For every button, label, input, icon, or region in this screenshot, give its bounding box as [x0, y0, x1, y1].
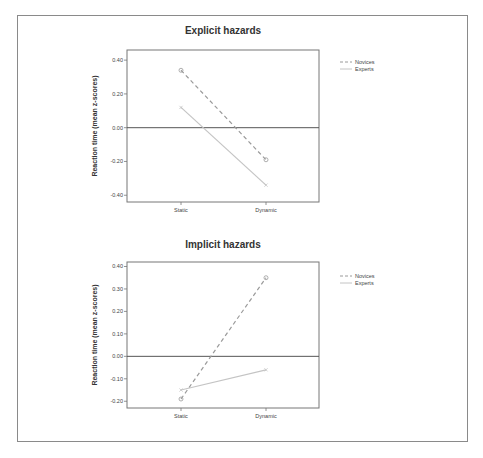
y-tick-label: 0.10: [112, 331, 123, 337]
y-tick-label: -0.40: [110, 192, 123, 198]
y-tick-label: -0.20: [110, 398, 123, 404]
legend-label: Experts: [355, 280, 374, 286]
y-tick-label: 0.30: [112, 286, 123, 292]
y-axis-label: Reaction time (mean z-scores): [91, 284, 99, 385]
x-tick-label: Static: [174, 413, 188, 419]
y-tick-label: 0.00: [112, 353, 123, 359]
plot-area: [127, 262, 319, 408]
y-tick-label: 0.00: [112, 125, 123, 131]
chart-explicit-hazards: Explicit hazards0.400.200.00-0.20-0.40St…: [91, 25, 375, 213]
y-tick-label: 0.40: [112, 57, 123, 63]
legend-label: Novices: [355, 273, 375, 279]
y-tick-label: -0.10: [110, 376, 123, 382]
legend-label: Novices: [355, 59, 375, 65]
y-axis-label: Reaction time (mean z-scores): [91, 75, 99, 176]
y-tick-label: -0.20: [110, 158, 123, 164]
legend-label: Experts: [355, 66, 374, 72]
charts-canvas: Explicit hazards0.400.200.00-0.20-0.40St…: [0, 0, 483, 458]
plot-area: [127, 50, 319, 202]
x-tick-label: Dynamic: [255, 413, 277, 419]
legend: NovicesExperts: [340, 59, 375, 72]
y-tick-label: 0.40: [112, 263, 123, 269]
x-tick-label: Dynamic: [255, 207, 277, 213]
y-tick-label: 0.20: [112, 91, 123, 97]
x-tick-label: Static: [174, 207, 188, 213]
legend: NovicesExperts: [340, 273, 375, 286]
y-tick-label: 0.20: [112, 308, 123, 314]
chart-implicit-hazards: Implicit hazards0.400.300.200.100.00-0.1…: [91, 239, 375, 419]
chart-title: Explicit hazards: [185, 25, 262, 36]
chart-title: Implicit hazards: [185, 239, 261, 250]
